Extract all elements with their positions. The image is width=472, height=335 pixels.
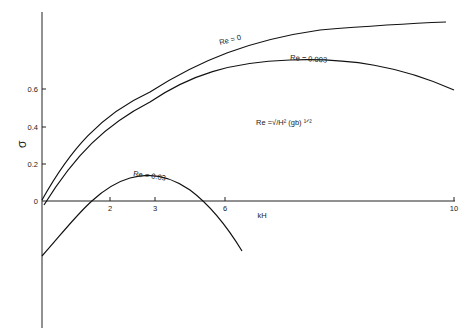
y-tick-0-4: 0.4 <box>28 123 38 132</box>
label-re-0: Re = 0 <box>218 33 242 47</box>
label-re-0-03: Re = 0.03 <box>133 169 167 182</box>
label-re-0-003: Re = 0.003 <box>290 53 327 65</box>
x-tick-2: 2 <box>108 204 112 213</box>
formula-annotation: Re =√/H² (gb) ¹ᐟ² <box>256 118 312 127</box>
y-tick-0-6: 0.6 <box>28 85 38 94</box>
y-tick-0: 0 <box>34 197 38 206</box>
x-tick-10: 10 <box>450 204 458 213</box>
curve-re-0 <box>42 22 446 200</box>
curve-re-0-003 <box>44 60 454 205</box>
y-axis-label: σ <box>15 140 29 148</box>
x-axis-label: kH <box>257 211 266 220</box>
curve-re-0-03 <box>42 175 242 256</box>
x-tick-6: 6 <box>223 204 227 213</box>
x-tick-3: 3 <box>153 204 157 213</box>
chart: 0.6 0.4 0.2 0 2 3 6 10 kH σ Re = 0 Re = … <box>0 0 472 335</box>
y-tick-0-2: 0.2 <box>28 160 38 169</box>
